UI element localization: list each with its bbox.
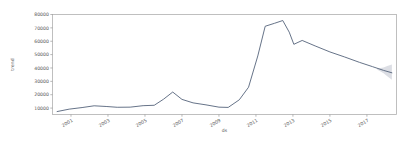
x-tick-group: 200120032005200720092011201320152017: [61, 115, 370, 129]
trend-component-figure: 1000020000300004000050000600007000080000…: [0, 0, 415, 141]
x-tick-label: 2003: [98, 118, 111, 128]
x-tick-label: 2005: [135, 118, 148, 128]
plot-border: [53, 15, 397, 115]
y-tick-label: 60000: [34, 39, 49, 44]
x-tick-label: 2007: [172, 118, 185, 128]
axes-frame: [53, 15, 397, 115]
x-tick-label: 2013: [283, 118, 296, 128]
y-tick-label: 40000: [34, 66, 49, 71]
x-tick-label: 2017: [357, 118, 370, 128]
x-axis-label: ds: [222, 128, 228, 133]
trend-line: [57, 21, 392, 112]
y-tick-label: 80000: [34, 12, 49, 17]
x-tick-label: 2015: [320, 118, 333, 128]
y-tick-group: 1000020000300004000050000600007000080000: [34, 12, 52, 111]
x-tick-label: 2011: [246, 118, 259, 128]
y-tick-label: 50000: [34, 52, 49, 57]
y-tick-label: 30000: [34, 79, 49, 84]
y-tick-label: 70000: [34, 26, 49, 31]
y-tick-label: 10000: [34, 106, 49, 111]
trend-line-group: [57, 21, 392, 112]
plot-canvas: 1000020000300004000050000600007000080000…: [0, 0, 415, 141]
y-axis-label: trend: [10, 58, 15, 70]
x-tick-label: 2001: [61, 118, 74, 128]
y-tick-label: 20000: [34, 92, 49, 97]
x-tick-label: 2009: [209, 118, 222, 128]
